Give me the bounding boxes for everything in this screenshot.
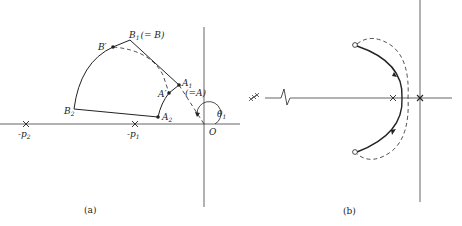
label-b1: B1(= B) xyxy=(128,30,165,41)
root-locus-figure: B1(= B) B′ A1 (=A) A′ A2 B2 O θ1 -p2 -p1… xyxy=(0,0,462,226)
label-a-prime: A′ xyxy=(157,89,167,99)
caption-a: (a) xyxy=(84,205,96,215)
arrow-lower-arc xyxy=(391,129,396,135)
zero-marker-lower xyxy=(353,150,358,155)
panel-a xyxy=(0,27,240,207)
root-locus-dashed-arc xyxy=(357,38,408,159)
point-a1 xyxy=(177,83,181,87)
edge-b1-a1 xyxy=(130,40,179,85)
label-a1-eq: (=A) xyxy=(185,88,207,98)
label-theta1: θ1 xyxy=(217,109,226,120)
label-minus-p2: -p2 xyxy=(18,129,31,140)
zero-marker-upper xyxy=(353,43,358,48)
label-b2: B2 xyxy=(63,106,75,117)
panel-b xyxy=(249,0,452,202)
root-locus-solid-arc xyxy=(357,46,402,152)
far-poles-marker xyxy=(249,93,259,101)
label-a2: A2 xyxy=(161,112,173,123)
label-origin: O xyxy=(209,127,217,137)
axis-break-zigzag xyxy=(281,89,290,105)
caption-b: (b) xyxy=(343,206,356,216)
label-minus-p1: -p1 xyxy=(127,129,140,140)
edge-a2-b2 xyxy=(74,109,158,117)
label-b-prime: B′ xyxy=(97,42,107,52)
point-a-prime xyxy=(167,91,171,95)
dashed-curve-bprime-aprime xyxy=(113,47,169,93)
point-b-prime xyxy=(111,45,115,49)
point-a2 xyxy=(156,115,160,119)
